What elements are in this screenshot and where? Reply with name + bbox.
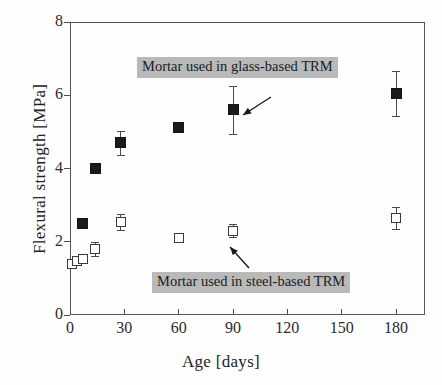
data-point-glass-based xyxy=(173,122,184,133)
data-point-steel-based xyxy=(228,226,238,236)
error-bar-cap xyxy=(392,116,400,117)
x-tick-label: 60 xyxy=(159,320,199,336)
x-tick-label: 30 xyxy=(104,320,144,336)
y-tick-label: 8 xyxy=(41,13,63,29)
x-tick-mark xyxy=(287,309,288,315)
x-tick-label: 90 xyxy=(213,320,253,336)
data-point-steel-based xyxy=(174,233,184,243)
x-tick-mark xyxy=(124,309,125,315)
x-tick-label: 120 xyxy=(267,320,307,336)
error-bar-cap xyxy=(392,229,400,230)
error-bar-cap xyxy=(392,207,400,208)
error-bar-cap xyxy=(392,71,400,72)
data-point-steel-based xyxy=(116,217,126,227)
error-bar-cap xyxy=(117,155,125,156)
annotation-arrow-icon xyxy=(233,87,281,125)
data-point-steel-based xyxy=(391,213,401,223)
error-bar-cap xyxy=(91,242,99,243)
data-point-glass-based xyxy=(391,88,402,99)
x-tick-label: 180 xyxy=(376,320,416,336)
flexural-strength-chart: 02468 0306090120150180 Mortar used in gl… xyxy=(0,0,442,385)
data-point-steel-based xyxy=(78,254,88,264)
x-tick-label: 150 xyxy=(322,320,362,336)
x-tick-mark xyxy=(341,309,342,315)
x-tick-mark xyxy=(178,309,179,315)
data-point-steel-based xyxy=(90,244,100,254)
data-point-glass-based xyxy=(90,163,101,174)
x-tick-mark xyxy=(70,309,71,315)
data-point-glass-based xyxy=(77,218,88,229)
error-bar-cap xyxy=(117,230,125,231)
x-tick-mark xyxy=(233,309,234,315)
y-tick-mark xyxy=(64,95,70,96)
x-tick-label: 0 xyxy=(50,320,90,336)
y-tick-mark xyxy=(64,168,70,169)
error-bar-cap xyxy=(117,131,125,132)
x-axis-title: Age [days] xyxy=(0,352,442,372)
y-tick-mark xyxy=(64,241,70,242)
series-annotation-label: Mortar used in glass-based TRM xyxy=(137,57,338,78)
error-bar-cap xyxy=(91,256,99,257)
error-bar-cap xyxy=(117,214,125,215)
x-tick-mark xyxy=(396,309,397,315)
error-bar-cap xyxy=(229,134,237,135)
data-point-glass-based xyxy=(115,137,126,148)
y-tick-mark xyxy=(64,22,70,23)
y-axis-title: Flexural strength [MPa] xyxy=(30,83,50,253)
annotation-arrow-icon xyxy=(220,237,259,278)
